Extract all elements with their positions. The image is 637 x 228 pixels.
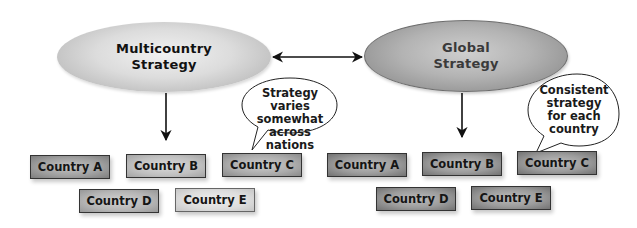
global-country-e: Country E — [471, 186, 551, 210]
global-country-c: Country C — [517, 151, 597, 175]
multicountry-country-e: Country E — [175, 188, 255, 212]
multicountry-country-c: Country C — [222, 153, 302, 177]
multicountry-country-b: Country B — [126, 154, 206, 178]
callout-line: across nations — [244, 126, 336, 152]
global-label-line1: Global — [433, 40, 498, 56]
multicountry-country-a: Country A — [30, 155, 110, 179]
multicountry-country-d: Country D — [79, 189, 159, 213]
callout-global: Consistent strategy for each country — [530, 84, 618, 136]
multicountry-label-line1: Multicountry — [116, 41, 212, 57]
callout-line: Strategy varies — [244, 87, 336, 113]
global-label-line2: Strategy — [433, 56, 498, 72]
multicountry-strategy-node: Multicountry Strategy — [57, 22, 271, 92]
callout-line: country — [530, 123, 618, 136]
global-country-b: Country B — [422, 152, 502, 176]
global-strategy-node: Global Strategy — [364, 20, 568, 92]
global-country-a: Country A — [327, 153, 407, 177]
callout-multicountry: Strategy varies somewhat across nations — [244, 87, 336, 152]
multicountry-label-line2: Strategy — [116, 57, 212, 73]
global-country-d: Country D — [376, 187, 456, 211]
strategy-diagram: Multicountry Strategy Global Strategy St… — [0, 0, 637, 228]
